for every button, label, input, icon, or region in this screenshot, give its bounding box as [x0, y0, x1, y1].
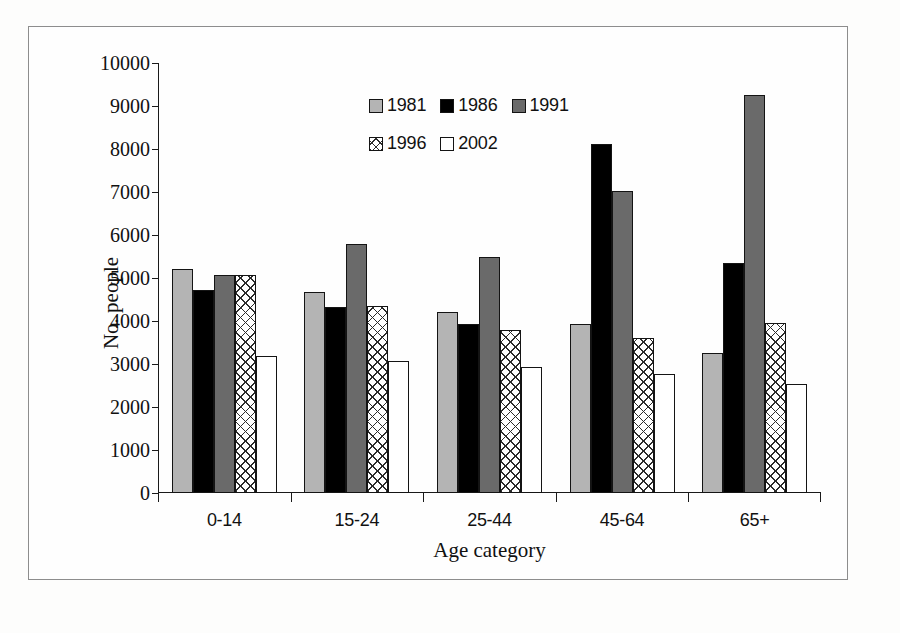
bar-1986-45-64[interactable] — [591, 144, 612, 493]
x-axis-tick-mark — [291, 493, 292, 502]
bar-1991-15-24[interactable] — [346, 244, 367, 493]
y-axis-tick-label: 0 — [140, 482, 150, 505]
legend-row-1: 198119861991 — [369, 95, 639, 116]
chart-legend: 19811986199119962002 — [369, 95, 639, 171]
bar-1981-45-64[interactable] — [570, 324, 591, 493]
x-axis-tick-mark — [423, 493, 424, 502]
y-axis-tick-label: 6000 — [110, 224, 150, 247]
y-axis-tick-label: 10000 — [100, 52, 150, 75]
x-axis-title: Age category — [158, 538, 821, 563]
y-axis-tick-label: 1000 — [110, 439, 150, 462]
legend-swatch-icon-1986 — [440, 99, 454, 113]
bar-1986-65+[interactable] — [723, 263, 744, 493]
bar-1991-45-64[interactable] — [612, 191, 633, 493]
legend-label-1991: 1991 — [530, 95, 569, 116]
bar-1996-25-44[interactable] — [500, 330, 521, 493]
x-axis-tick-mark — [158, 493, 159, 502]
legend-swatch-icon-1981 — [369, 99, 383, 113]
y-axis-tick-label: 4000 — [110, 310, 150, 333]
legend-item-1981[interactable]: 1981 — [369, 95, 426, 116]
bar-1981-15-24[interactable] — [304, 292, 325, 493]
bar-2002-45-64[interactable] — [654, 374, 675, 493]
legend-item-1991[interactable]: 1991 — [512, 95, 569, 116]
bar-1996-15-24[interactable] — [367, 306, 388, 493]
bar-1996-0-14[interactable] — [235, 275, 256, 493]
legend-swatch-icon-1996 — [369, 137, 383, 151]
bar-group-65+ — [688, 63, 821, 493]
legend-label-1996: 1996 — [387, 133, 426, 154]
bar-2002-25-44[interactable] — [521, 367, 542, 493]
y-axis-tick-label: 9000 — [110, 95, 150, 118]
bar-group-0-14 — [158, 63, 291, 493]
x-axis-tick-label: 0-14 — [158, 510, 291, 531]
bar-1991-0-14[interactable] — [214, 275, 235, 493]
y-axis-tick-label: 3000 — [110, 353, 150, 376]
bar-1991-65+[interactable] — [744, 95, 765, 493]
x-axis-tick-label: 65+ — [688, 510, 821, 531]
x-axis-tick-mark — [688, 493, 689, 502]
legend-label-1981: 1981 — [387, 95, 426, 116]
x-axis-tick-label: 25-44 — [423, 510, 556, 531]
x-axis-tick-mark-end — [820, 493, 821, 502]
bar-1986-0-14[interactable] — [193, 290, 214, 493]
legend-swatch-icon-1991 — [512, 99, 526, 113]
bar-1981-25-44[interactable] — [437, 312, 458, 493]
bar-1981-65+[interactable] — [702, 353, 723, 493]
figure-frame: No. people 01000200030004000500060007000… — [28, 26, 848, 580]
x-axis-tick-label: 15-24 — [291, 510, 424, 531]
scanned-page: No. people 01000200030004000500060007000… — [0, 0, 900, 633]
bar-1996-65+[interactable] — [765, 323, 786, 493]
legend-label-1986: 1986 — [458, 95, 497, 116]
bar-2002-15-24[interactable] — [388, 361, 409, 493]
x-axis-tick-mark — [556, 493, 557, 502]
bar-1981-0-14[interactable] — [172, 269, 193, 493]
bar-2002-0-14[interactable] — [256, 356, 277, 493]
bar-1996-45-64[interactable] — [633, 338, 654, 493]
legend-swatch-icon-2002 — [440, 137, 454, 151]
x-axis-tick-label: 45-64 — [556, 510, 689, 531]
legend-label-2002: 2002 — [458, 133, 497, 154]
bar-1991-25-44[interactable] — [479, 257, 500, 493]
legend-item-2002[interactable]: 2002 — [440, 133, 497, 154]
y-axis-tick-label: 5000 — [110, 267, 150, 290]
legend-item-1996[interactable]: 1996 — [369, 133, 426, 154]
bar-1986-25-44[interactable] — [458, 324, 479, 493]
bar-1986-15-24[interactable] — [325, 307, 346, 493]
y-axis-tick-label: 7000 — [110, 181, 150, 204]
y-axis-tick-label: 8000 — [110, 138, 150, 161]
legend-item-1986[interactable]: 1986 — [440, 95, 497, 116]
bar-2002-65+[interactable] — [786, 384, 807, 493]
y-axis-tick-label: 2000 — [110, 396, 150, 419]
legend-row-2: 19962002 — [369, 133, 639, 154]
